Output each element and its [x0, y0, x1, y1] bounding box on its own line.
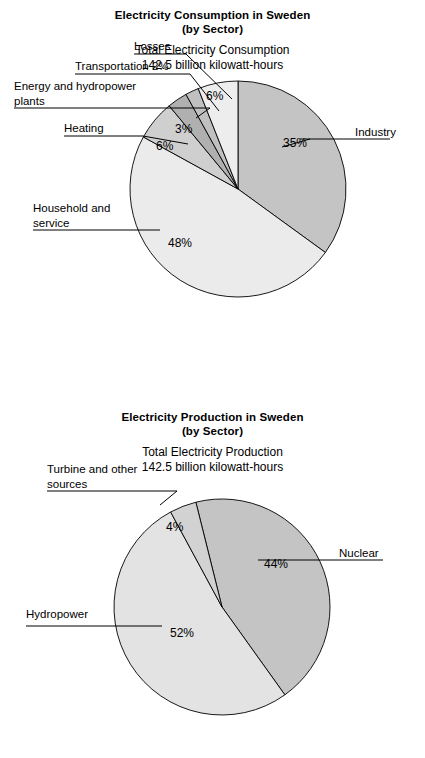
label-transportation: Transportation 2%	[75, 59, 169, 74]
chart-1-title-line-1: Electricity Consumption in Sweden	[0, 8, 425, 22]
label-turbine-line-2: sources	[47, 477, 137, 492]
chart-1-subtitle-line-1: Total Electricity Consumption	[0, 43, 425, 58]
label-turbine-line-1: Turbine and other	[47, 462, 137, 477]
pct-household: 48%	[168, 236, 192, 250]
chart-2-slices	[114, 499, 330, 715]
label-industry: Industry	[355, 125, 396, 140]
chart-2-title-line-1: Electricity Production in Sweden	[0, 410, 425, 424]
label-household-and-service: Household and service	[33, 201, 110, 230]
label-energy-hydropower-plants: Energy and hydropower plants	[14, 79, 136, 108]
chart-2-title: Electricity Production in Sweden (by Sec…	[0, 380, 425, 438]
chart-2-title-line-2: (by Sector)	[0, 424, 425, 438]
chart-1-subtitle: Total Electricity Consumption 142.5 bill…	[0, 43, 425, 73]
pct-hydropower: 52%	[170, 626, 194, 640]
chart-1-title-line-2: (by Sector)	[0, 22, 425, 36]
pct-heating: 6%	[156, 139, 173, 153]
chart-1-canvas: Losses Transportation 2% Energy and hydr…	[0, 73, 425, 363]
label-household-line-1: Household and	[33, 201, 110, 216]
chart-2-subtitle-line-1: Total Electricity Production	[0, 445, 425, 460]
label-heating: Heating	[64, 121, 104, 136]
pct-nuclear: 44%	[264, 557, 288, 571]
label-losses: Losses	[134, 39, 170, 54]
chart-1-subtitle-line-2: 142.5 billion kilowatt-hours	[0, 58, 425, 73]
leader-line	[160, 491, 177, 505]
pct-energy: 3%	[175, 122, 192, 136]
pct-turbine: 4%	[166, 520, 183, 534]
chart-2-canvas: Turbine and other sources Hydropower Nuc…	[0, 475, 425, 758]
label-turbine-and-other-sources: Turbine and other sources	[47, 462, 137, 491]
label-energy-line-1: Energy and hydropower	[14, 79, 136, 94]
label-nuclear: Nuclear	[339, 546, 379, 561]
label-hydropower: Hydropower	[26, 607, 88, 622]
chart-1-slices	[130, 81, 346, 297]
label-energy-line-2: plants	[14, 94, 136, 109]
pct-losses: 6%	[206, 89, 223, 103]
label-household-line-2: service	[33, 216, 110, 231]
chart-1-title: Electricity Consumption in Sweden (by Se…	[0, 0, 425, 36]
production-figure: Electricity Production in Sweden (by Sec…	[0, 380, 425, 758]
pct-industry: 35%	[283, 136, 307, 150]
consumption-figure: Electricity Consumption in Sweden (by Se…	[0, 0, 425, 380]
